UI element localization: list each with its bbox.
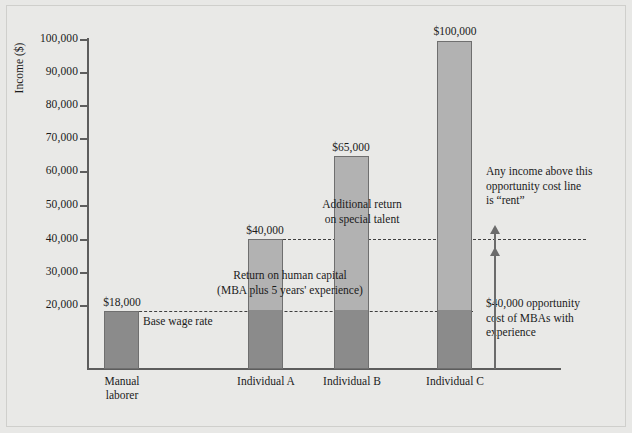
y-tick-label-90000: 90,000 (16, 66, 78, 78)
annotation-base-wage-rate: Base wage rate (143, 314, 283, 329)
y-tick-label-40000: 40,000 (16, 233, 78, 245)
category-label-individual-b: Individual B (310, 375, 394, 389)
arrow-up-icon (490, 225, 500, 234)
y-tick-70000 (80, 138, 89, 140)
y-tick-30000 (80, 272, 89, 274)
y-tick-label-60000: 60,000 (16, 165, 78, 177)
chart-page: Income ($) 100,000 90,000 80,000 70,000 … (0, 0, 632, 433)
y-tick-label-70000: 70,000 (16, 132, 78, 144)
y-tick-60000 (80, 171, 89, 173)
y-tick-50000 (80, 205, 89, 207)
bar-value-individual-a: $40,000 (234, 224, 296, 236)
opportunity-cost-reference-line (248, 239, 586, 240)
bar-manual-laborer[interactable] (104, 311, 139, 369)
y-tick-90000 (80, 72, 89, 74)
y-tick-label-30000: 30,000 (16, 266, 78, 278)
bar-individual-b[interactable] (334, 156, 369, 369)
category-label-individual-a: Individual A (224, 375, 308, 389)
y-tick-label-100000: 100,000 (16, 33, 78, 45)
bar-value-individual-b: $65,000 (320, 141, 382, 153)
bar-segment-human-capital-c (438, 42, 471, 312)
y-axis-line (87, 38, 89, 370)
y-tick-20000 (80, 305, 89, 307)
y-tick-label-20000: 20,000 (16, 299, 78, 311)
bar-value-individual-c: $100,000 (419, 25, 491, 37)
bar-value-manual-laborer: $18,000 (91, 296, 153, 308)
bar-segment-base-wage-b (335, 310, 368, 368)
y-tick-label-80000: 80,000 (16, 99, 78, 111)
annotation-special-talent-return: Additional return on special talent (288, 197, 436, 226)
y-tick-40000 (80, 239, 89, 241)
bar-individual-c[interactable] (437, 41, 472, 369)
base-wage-reference-line (104, 311, 473, 312)
annotation-opportunity-cost-note: $40,000 opportunity cost of MBAs with ex… (486, 296, 626, 340)
y-tick-label-50000: 50,000 (16, 199, 78, 211)
y-tick-100000 (80, 39, 89, 41)
category-label-manual-laborer: Manual laborer (86, 375, 158, 402)
arrow-up-lower-icon (490, 247, 500, 256)
bar-segment-base-wage (105, 312, 138, 368)
y-tick-80000 (80, 105, 89, 107)
bar-segment-base-wage-c (438, 310, 471, 368)
annotation-rent-note: Any income above this opportunity cost l… (486, 164, 628, 208)
opportunity-cost-arrow (494, 233, 496, 369)
plot-area: Income ($) 100,000 90,000 80,000 70,000 … (0, 0, 632, 433)
x-axis-line (87, 368, 561, 370)
annotation-human-capital-return: Return on human capital (MBA plus 5 year… (180, 268, 400, 297)
category-label-individual-c: Individual C (413, 375, 497, 389)
bar-individual-a[interactable] (248, 239, 283, 369)
